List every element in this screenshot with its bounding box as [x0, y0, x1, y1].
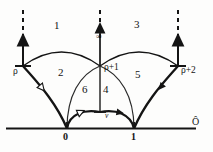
- region-label-4: 4: [103, 84, 109, 95]
- figure-canvas: [0, 0, 213, 152]
- region-label-6: 6: [82, 84, 88, 95]
- region-label-1: 1: [54, 20, 60, 31]
- axis-label: Ô: [192, 117, 199, 127]
- infinity-label: ∞: [96, 33, 102, 41]
- region-label-2: 2: [58, 67, 64, 78]
- half-plane-tessellation-figure: 1 2 3 4 5 6 ρ ρ+1 ρ+2 ∞ v 0 1 Ô: [0, 0, 213, 152]
- region-label-5: 5: [135, 69, 141, 80]
- axis-tick-label-one: 1: [131, 132, 136, 142]
- axis-tick-label-zero: 0: [63, 132, 68, 142]
- vertex-label-v: v: [105, 112, 108, 120]
- cusp-label-rho: ρ: [13, 67, 18, 77]
- small-arc-zero-to-vertex: [67, 111, 100, 128]
- arc-rho-to-rho-plus-1: [23, 52, 100, 66]
- cusp-label-rho-plus-2: ρ+2: [181, 66, 196, 76]
- region-label-3: 3: [134, 19, 140, 30]
- cusp-label-rho-plus-1: ρ+1: [104, 63, 119, 73]
